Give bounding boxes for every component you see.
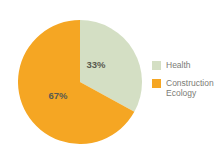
- pie-chart-figure: 33% 67% Health Construction Ecology: [0, 0, 221, 158]
- legend-swatch-health-icon: [152, 61, 161, 70]
- legend-item-construction-ecology[interactable]: Construction Ecology: [152, 78, 221, 99]
- legend-label-health: Health: [166, 60, 191, 71]
- legend-item-health[interactable]: Health: [152, 60, 221, 71]
- chart-legend: Health Construction Ecology: [152, 60, 221, 106]
- pie-chart-plot-area: 33% 67%: [18, 20, 142, 144]
- pie-slice-label-construction-ecology: 67%: [48, 90, 68, 101]
- pie-slice-label-health: 33%: [86, 59, 106, 70]
- legend-label-construction-ecology: Construction Ecology: [166, 78, 214, 99]
- legend-swatch-construction-ecology-icon: [152, 79, 161, 88]
- pie-chart-svg: 33% 67%: [18, 20, 142, 144]
